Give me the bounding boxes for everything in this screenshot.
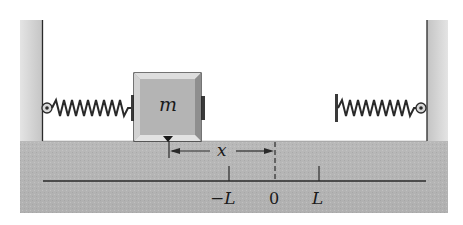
tick-label-l: L <box>311 188 323 208</box>
mass-spring-diagram: −L 0 L x m <box>0 0 463 225</box>
tick-label-zero: 0 <box>269 189 279 208</box>
left-wall <box>20 20 43 142</box>
mass-label: m <box>159 93 177 115</box>
left-spring <box>42 95 134 121</box>
right-spring <box>335 94 426 122</box>
tick-label-minus-l: −L <box>210 188 236 208</box>
displacement-label: x <box>217 140 227 160</box>
mass-block: m <box>134 73 205 142</box>
right-wall <box>427 20 448 142</box>
